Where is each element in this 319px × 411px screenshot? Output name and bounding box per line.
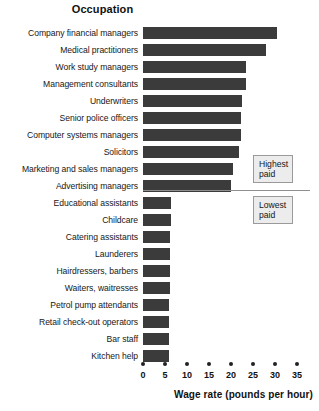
bar-row: Work study managers [0,59,319,76]
bar [143,146,239,158]
x-axis-tick-dot [185,362,189,366]
bar-row-label: Advertising managers [56,178,138,194]
bar [143,197,171,209]
bar-row-label: Underwriters [90,93,138,109]
bar [143,248,170,260]
group-divider [143,190,310,191]
x-axis-tick-label: 0 [140,370,145,380]
x-axis-tick-dot [207,362,211,366]
bar-row: Management consultants [0,76,319,93]
bar-row-label: Solicitors [104,144,138,160]
bar-row: Petrol pump attendants [0,297,319,314]
x-axis-tick-dot [229,362,233,366]
bar [143,231,170,243]
bar-row-label: Company financial managers [28,25,138,41]
bar-row: Launderers [0,246,319,263]
bar [143,214,171,226]
bar-row-label: Educational assistants [54,195,138,211]
callout-highest-paid: Highest paid [253,155,293,183]
bar [143,163,233,175]
bar-row-label: Catering assistants [66,229,138,245]
bar-row: Waiters, waitresses [0,280,319,297]
bar-row-label: Retail check-out operators [39,314,138,330]
bar [143,299,169,311]
x-axis-tick-dot [163,362,167,366]
bar-row: Company financial managers [0,25,319,42]
bar-row: Hairdressers, barbers [0,263,319,280]
bar-row: Senior police officers [0,110,319,127]
bar [143,61,246,73]
bar-row-label: Childcare [102,212,138,228]
bar-row-label: Management consultants [43,76,138,92]
bar-row-label: Senior police officers [59,110,138,126]
x-axis-tick-label: 5 [162,370,167,380]
bar [143,265,170,277]
bar-row: Bar staff [0,331,319,348]
x-axis: 05101520253035 [0,358,319,388]
bar-row-label: Marketing and sales managers [22,161,138,177]
x-axis-tick-label: 25 [248,370,258,380]
bar-row: Retail check-out operators [0,314,319,331]
bar-row: Underwriters [0,93,319,110]
x-axis-tick-dot [273,362,277,366]
x-axis-tick-label: 10 [182,370,192,380]
x-axis-tick-dot [295,362,299,366]
bar-row-label: Petrol pump attendants [50,297,138,313]
bar [143,27,277,39]
bar [143,95,242,107]
bar [143,333,169,345]
bar [143,44,266,56]
bar [143,78,246,90]
callout-lowest-paid: Lowest paid [253,196,293,224]
bar-row: Computer systems managers [0,127,319,144]
x-axis-tick-label: 15 [204,370,214,380]
bar-row-label: Work study managers [56,59,138,75]
x-axis-tick-label: 20 [226,370,236,380]
x-axis-tick-dot [141,362,145,366]
bar-row-label: Computer systems managers [27,127,138,143]
bar [143,129,241,141]
bar-row: Catering assistants [0,229,319,246]
bar [143,316,169,328]
x-axis-title: Wage rate (pounds per hour) [0,389,313,400]
bar-rows: Company financial managersMedical practi… [0,25,319,365]
bar [143,112,241,124]
x-axis-tick-label: 35 [292,370,302,380]
wage-rate-bar-chart: Occupation Company financial managersMed… [0,0,319,411]
x-axis-tick-dot [251,362,255,366]
bar-row-label: Bar staff [107,331,138,347]
bar-row-label: Hairdressers, barbers [56,263,138,279]
bar-row-label: Medical practitioners [60,42,138,58]
bar [143,282,170,294]
x-axis-tick-label: 30 [270,370,280,380]
bar-row: Medical practitioners [0,42,319,59]
chart-title: Occupation [0,3,205,15]
bar-row-label: Waiters, waitresses [65,280,138,296]
bar-row-label: Launderers [95,246,138,262]
